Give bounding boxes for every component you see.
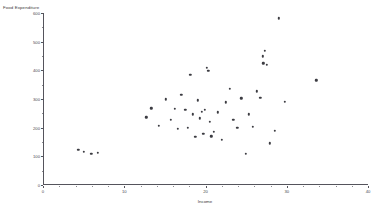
y-axis-tick-label-group: 0100200300400500600: [0, 0, 40, 218]
x-axis-minor-tick-mark: [108, 186, 109, 187]
data-point: [83, 151, 85, 153]
data-point: [213, 130, 215, 132]
y-axis-tick-label: 400: [33, 68, 40, 73]
data-point: [90, 153, 92, 155]
data-point: [261, 55, 263, 57]
x-axis-tick-label: 30: [284, 189, 289, 194]
data-point: [315, 79, 317, 81]
data-point: [157, 125, 159, 127]
x-axis-minor-tick-mark: [76, 186, 77, 187]
x-axis-title: Income: [198, 199, 212, 204]
data-point: [264, 50, 266, 52]
x-axis-tick-mark: [206, 186, 207, 188]
data-point: [150, 107, 152, 109]
x-axis-tick-label: 20: [203, 189, 208, 194]
x-axis-minor-tick-mark: [92, 186, 93, 187]
x-axis-tick-mark: [124, 186, 125, 188]
data-point: [77, 149, 79, 151]
x-axis-minor-tick-mark: [271, 186, 272, 187]
data-point: [189, 74, 191, 76]
data-point: [191, 113, 193, 115]
x-axis-tick-label: 40: [366, 189, 371, 194]
data-point: [221, 139, 223, 141]
data-point: [269, 142, 271, 144]
x-axis-minor-tick-mark: [303, 186, 304, 187]
data-point: [209, 120, 211, 122]
x-axis-minor-tick-mark: [222, 186, 223, 187]
data-point: [180, 94, 182, 96]
data-point: [283, 100, 285, 102]
data-point: [96, 152, 98, 154]
y-axis-tick-label: 600: [33, 11, 40, 16]
data-point: [199, 117, 201, 119]
data-point: [184, 109, 186, 111]
data-point: [278, 17, 280, 19]
data-point: [194, 135, 196, 137]
data-point: [225, 101, 227, 103]
x-axis-minor-tick-mark: [254, 186, 255, 187]
x-axis-tick-mark: [368, 186, 369, 188]
data-point: [248, 113, 250, 115]
data-point: [229, 87, 231, 89]
data-point: [177, 128, 179, 130]
x-axis-tick-label: 10: [122, 189, 127, 194]
data-point: [145, 116, 147, 118]
data-point: [204, 108, 206, 110]
x-axis-minor-tick-mark: [189, 186, 190, 187]
x-axis-minor-tick-mark: [157, 186, 158, 187]
data-point: [240, 97, 242, 99]
data-point: [274, 130, 276, 132]
x-axis-minor-tick-mark: [59, 186, 60, 187]
data-point: [187, 126, 189, 128]
data-point: [256, 90, 258, 92]
data-point: [170, 119, 172, 121]
y-axis-tick-label: 200: [33, 125, 40, 130]
x-axis-minor-tick-mark: [173, 186, 174, 187]
scatter-plot-figure: Food Expenditure 0100200300400500600 010…: [0, 0, 383, 218]
x-axis-tick-label: 0: [42, 189, 44, 194]
data-point: [217, 111, 219, 113]
data-point: [262, 62, 264, 64]
x-axis-minor-tick-mark: [352, 186, 353, 187]
data-point: [202, 133, 204, 135]
data-point: [165, 98, 167, 100]
data-point: [207, 70, 209, 72]
x-axis-tick-mark: [287, 186, 288, 188]
y-axis-tick-label: 500: [33, 39, 40, 44]
data-point: [210, 135, 212, 137]
data-point: [232, 118, 234, 120]
data-point: [252, 125, 254, 127]
x-axis-minor-tick-mark: [319, 186, 320, 187]
data-point: [196, 99, 198, 101]
y-axis-tick-label: 300: [33, 97, 40, 102]
y-axis-tick-label: 100: [33, 154, 40, 159]
x-axis-tick-mark: [43, 186, 44, 188]
data-point: [200, 110, 202, 112]
data-point: [265, 64, 267, 66]
plot-area: [43, 13, 368, 185]
x-axis-minor-tick-mark: [238, 186, 239, 187]
data-point: [236, 126, 238, 128]
data-point: [259, 97, 261, 99]
data-point: [244, 153, 246, 155]
x-axis-minor-tick-mark: [336, 186, 337, 187]
data-point: [174, 108, 176, 110]
x-axis-minor-tick-mark: [141, 186, 142, 187]
